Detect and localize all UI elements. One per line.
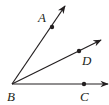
angle-diagram: ADCB [0, 0, 109, 105]
label-a: A [37, 10, 46, 25]
point-d [77, 49, 81, 53]
labels-group: ADCB [7, 10, 92, 104]
label-c: C [80, 89, 89, 104]
point-c [82, 82, 86, 86]
point-a [50, 25, 54, 29]
points-group [50, 25, 86, 86]
label-b: B [7, 89, 15, 104]
label-d: D [81, 53, 92, 68]
rays-group [12, 6, 108, 84]
